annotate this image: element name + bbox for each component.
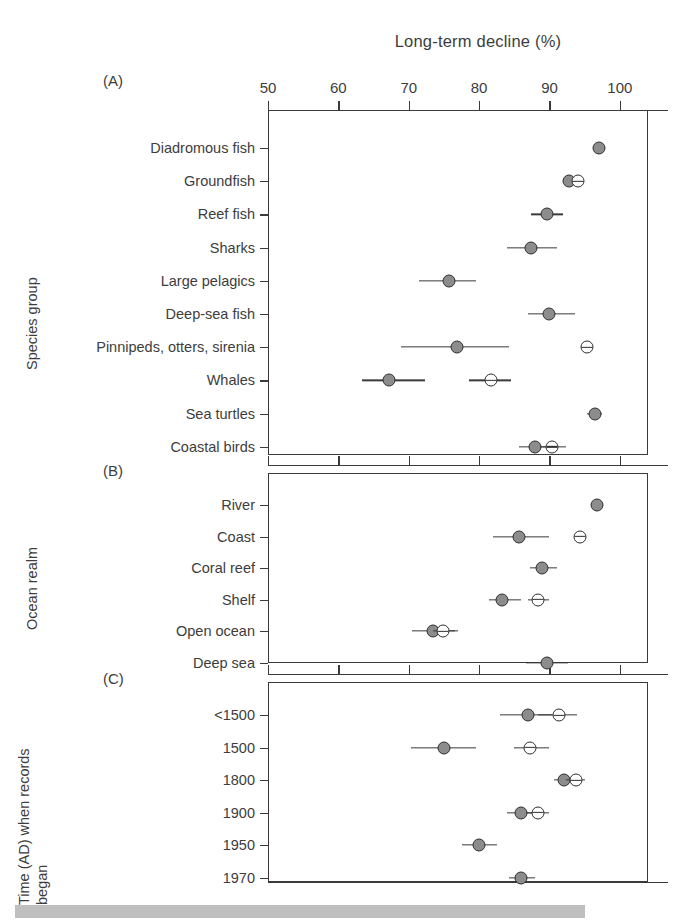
x-axis-tick — [268, 101, 269, 110]
category-tick — [260, 380, 268, 381]
category-tick — [260, 505, 268, 506]
category-label: Coral reef — [191, 560, 255, 576]
data-point-open — [553, 709, 566, 722]
panel-divider-tick — [268, 665, 269, 674]
panel-tag-c: (C) — [103, 670, 124, 687]
category-label: <1500 — [214, 707, 255, 723]
category-tick — [260, 813, 268, 814]
data-point-filled — [437, 741, 450, 754]
panel-divider-tick — [479, 665, 480, 674]
category-tick — [260, 347, 268, 348]
y-axis-title-panel-c-line2: began — [34, 865, 50, 905]
open-marker-crossbar — [547, 446, 558, 447]
data-point-open — [437, 625, 450, 638]
data-point-filled — [592, 142, 605, 155]
category-label: River — [221, 497, 255, 513]
open-marker-crossbar — [486, 380, 497, 381]
data-point-open — [573, 530, 586, 543]
category-tick — [260, 715, 268, 716]
category-label: Coastal birds — [170, 439, 255, 455]
category-tick — [260, 281, 268, 282]
data-point-filled — [383, 374, 396, 387]
data-point-filled — [473, 839, 486, 852]
data-point-filled — [522, 709, 535, 722]
x-axis-tick-label: 60 — [330, 79, 347, 96]
open-marker-crossbar — [525, 747, 536, 748]
category-label: Coast — [217, 529, 255, 545]
panel-divider-tick — [338, 665, 339, 674]
plot-frame-panel-c — [268, 682, 648, 882]
data-point-filled — [496, 593, 509, 606]
category-tick — [260, 414, 268, 415]
open-marker-crossbar — [570, 779, 581, 780]
bottom-strip — [15, 905, 585, 918]
panel-divider-axis — [268, 465, 668, 466]
panel-divider-tick — [409, 456, 410, 465]
category-label: 1500 — [223, 740, 255, 756]
data-point-filled — [442, 274, 455, 287]
data-point-filled — [542, 308, 555, 321]
data-point-open — [571, 175, 584, 188]
x-axis-tick — [479, 101, 480, 110]
category-label: Open ocean — [176, 623, 255, 639]
panel-divider-tick — [409, 665, 410, 674]
data-point-open — [524, 741, 537, 754]
category-tick — [260, 214, 268, 215]
data-point-open — [581, 341, 594, 354]
category-tick — [260, 568, 268, 569]
data-point-open — [532, 593, 545, 606]
data-point-open — [569, 774, 582, 787]
panel-divider-tick — [549, 456, 550, 465]
x-axis-bottom-line — [268, 882, 668, 883]
data-point-filled — [540, 656, 553, 669]
category-label: Shelf — [222, 592, 255, 608]
category-tick — [260, 537, 268, 538]
data-point-open — [546, 440, 559, 453]
data-point-open — [532, 806, 545, 819]
y-axis-title-panel-a: Species group — [24, 277, 40, 370]
category-label: Large pelagics — [161, 273, 255, 289]
category-tick — [260, 663, 268, 664]
category-label: 1800 — [223, 772, 255, 788]
x-axis-tick-label: 50 — [260, 79, 277, 96]
category-label: Sea turtles — [186, 406, 255, 422]
category-tick — [260, 600, 268, 601]
x-axis-tick — [620, 101, 621, 110]
category-label: Groundfish — [184, 173, 255, 189]
x-axis-tick — [338, 101, 339, 110]
category-tick — [260, 248, 268, 249]
category-tick — [260, 780, 268, 781]
panel-divider-tick — [479, 456, 480, 465]
open-marker-crossbar — [582, 347, 593, 348]
x-axis-tick-label: 70 — [400, 79, 417, 96]
panel-divider-tick — [338, 456, 339, 465]
x-axis-tick-label: 80 — [471, 79, 488, 96]
category-tick — [260, 314, 268, 315]
open-marker-crossbar — [533, 812, 544, 813]
category-label: Reef fish — [198, 206, 255, 222]
category-label: 1950 — [223, 837, 255, 853]
x-axis-tick-label: 100 — [607, 79, 632, 96]
data-point-filled — [590, 499, 603, 512]
figure-canvas: Long-term decline (%) (A) (B) (C) Specie… — [0, 0, 692, 920]
y-axis-title-panel-b: Ocean realm — [24, 547, 40, 630]
category-tick — [260, 631, 268, 632]
category-tick — [260, 748, 268, 749]
panel-divider-tick — [620, 665, 621, 674]
data-point-filled — [451, 341, 464, 354]
x-axis-line — [268, 110, 668, 111]
open-marker-crossbar — [554, 714, 565, 715]
x-axis-tick — [549, 101, 550, 110]
open-marker-crossbar — [438, 630, 449, 631]
panel-divider-tick — [268, 456, 269, 465]
category-tick — [260, 845, 268, 846]
data-point-filled — [588, 407, 601, 420]
category-label: Deep sea — [193, 655, 255, 671]
category-tick — [260, 878, 268, 879]
panel-tag-a: (A) — [103, 72, 123, 89]
data-point-filled — [513, 530, 526, 543]
data-point-filled — [515, 871, 528, 884]
category-tick — [260, 447, 268, 448]
data-point-filled — [536, 562, 549, 575]
x-axis-tick — [409, 101, 410, 110]
